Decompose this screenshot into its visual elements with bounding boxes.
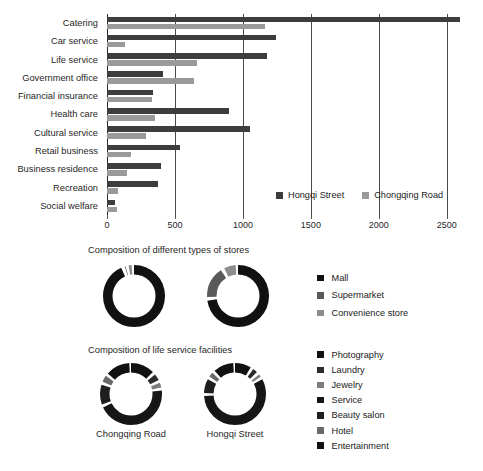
axis-tick-label: 500 bbox=[167, 220, 182, 230]
bar-group bbox=[107, 51, 474, 69]
bar bbox=[107, 181, 158, 187]
axis-tick bbox=[243, 215, 244, 219]
bar-group bbox=[107, 14, 474, 32]
category-label: Cultural service bbox=[0, 124, 103, 142]
axis-tick bbox=[175, 215, 176, 219]
legend-item: Laundry bbox=[317, 362, 389, 377]
legend-label: Hongqi Street bbox=[288, 190, 344, 200]
donut-section-life-service: Composition of life service facilities C… bbox=[0, 345, 483, 471]
legend-swatch-icon bbox=[317, 427, 324, 434]
donut-life-service-chongqing-road bbox=[100, 363, 162, 425]
legend-label: Photography bbox=[332, 350, 384, 360]
axis-tick bbox=[107, 215, 108, 219]
category-label: Financial insurance bbox=[0, 87, 103, 105]
legend-label: Supermarket bbox=[332, 290, 385, 300]
axis-tick-label: 1500 bbox=[301, 220, 321, 230]
category-axis-labels: CateringCar serviceLife serviceGovernmen… bbox=[0, 14, 103, 215]
bar bbox=[107, 90, 153, 96]
axis-tick bbox=[379, 215, 380, 219]
bar-group bbox=[107, 142, 474, 160]
legend-label: Entertainment bbox=[332, 441, 389, 451]
legend-item: Photography bbox=[317, 347, 389, 362]
legend-item: Chongqing Road bbox=[362, 190, 443, 200]
bar bbox=[107, 152, 131, 158]
bar bbox=[107, 207, 117, 213]
legend-item: Entertainment bbox=[317, 438, 389, 453]
grouped-bar-chart: CateringCar serviceLife serviceGovernmen… bbox=[0, 0, 483, 240]
legend-item: Hotel bbox=[317, 423, 389, 438]
value-axis-ticks: 05001000150020002500 bbox=[107, 215, 474, 237]
category-label: Social welfare bbox=[0, 197, 103, 215]
bar bbox=[107, 53, 267, 59]
bar bbox=[107, 60, 197, 66]
donut-caption-hongqi-street: Hongqi Street bbox=[192, 429, 278, 439]
legend-label: Convenience store bbox=[332, 308, 409, 318]
bar bbox=[107, 71, 163, 77]
legend-item: Supermarket bbox=[317, 287, 408, 305]
legend-label: Mall bbox=[332, 273, 349, 283]
category-label: Government office bbox=[0, 69, 103, 87]
bar-group bbox=[107, 32, 474, 50]
donut-stores-hongqi-street bbox=[207, 265, 269, 327]
legend-label: Jewelry bbox=[332, 380, 363, 390]
legend-label: Hotel bbox=[332, 426, 353, 436]
legend-label: Laundry bbox=[332, 365, 365, 375]
bar bbox=[107, 145, 180, 151]
bar-group bbox=[107, 69, 474, 87]
axis-tick bbox=[311, 215, 312, 219]
bar bbox=[107, 115, 155, 121]
bar-group bbox=[107, 87, 474, 105]
donut-segment bbox=[108, 270, 161, 323]
legend-item: Mall bbox=[317, 269, 408, 287]
legend-swatch-icon bbox=[362, 192, 369, 199]
bar bbox=[107, 163, 161, 169]
axis-tick bbox=[447, 215, 448, 219]
legend-swatch-icon bbox=[317, 412, 324, 419]
category-label: Health care bbox=[0, 105, 103, 123]
legend-label: Beauty salon bbox=[332, 410, 385, 420]
axis-tick-label: 2000 bbox=[369, 220, 389, 230]
bar bbox=[107, 108, 229, 114]
bar bbox=[107, 35, 276, 41]
legend-swatch-icon bbox=[317, 397, 324, 404]
legend-item: Convenience store bbox=[317, 304, 408, 322]
donut-section-1-title: Composition of different types of stores bbox=[88, 245, 249, 255]
donut-life-service-hongqi-street bbox=[204, 363, 266, 425]
bar-plot-area bbox=[107, 14, 474, 215]
donut-legend-stores: MallSupermarketConvenience store bbox=[317, 269, 408, 322]
category-label: Recreation bbox=[0, 179, 103, 197]
bar-chart-legend: Hongqi StreetChongqing Road bbox=[276, 190, 443, 200]
bar bbox=[107, 97, 152, 103]
legend-item: Jewelry bbox=[317, 377, 389, 392]
category-label: Business residence bbox=[0, 160, 103, 178]
legend-swatch-icon bbox=[276, 192, 283, 199]
legend-label: Service bbox=[332, 395, 363, 405]
legend-swatch-icon bbox=[317, 442, 324, 449]
axis-tick-label: 0 bbox=[104, 220, 109, 230]
bar bbox=[107, 200, 115, 206]
category-label: Retail business bbox=[0, 142, 103, 160]
figure-root: CateringCar serviceLife serviceGovernmen… bbox=[0, 0, 483, 471]
legend-label: Chongqing Road bbox=[374, 190, 443, 200]
legend-swatch-icon bbox=[317, 367, 324, 374]
bar bbox=[107, 133, 146, 139]
donut-caption-chongqing-road: Chongqing Road bbox=[88, 429, 174, 439]
bar bbox=[107, 170, 127, 176]
bar bbox=[107, 188, 118, 194]
legend-item: Beauty salon bbox=[317, 408, 389, 423]
legend-swatch-icon bbox=[317, 292, 324, 299]
donut-stores-chongqing-road bbox=[103, 265, 165, 327]
legend-swatch-icon bbox=[317, 382, 324, 389]
bar bbox=[107, 78, 194, 84]
bar bbox=[107, 126, 250, 132]
legend-swatch-icon bbox=[317, 351, 324, 358]
category-label: Catering bbox=[0, 14, 103, 32]
donut-section-stores: Composition of different types of stores… bbox=[0, 245, 483, 350]
category-label: Life service bbox=[0, 51, 103, 69]
bar-group bbox=[107, 106, 474, 124]
bar bbox=[107, 42, 125, 48]
donut-section-2-title: Composition of life service facilities bbox=[88, 345, 232, 355]
bar-group bbox=[107, 160, 474, 178]
legend-item: Hongqi Street bbox=[276, 190, 344, 200]
legend-swatch-icon bbox=[317, 275, 324, 282]
